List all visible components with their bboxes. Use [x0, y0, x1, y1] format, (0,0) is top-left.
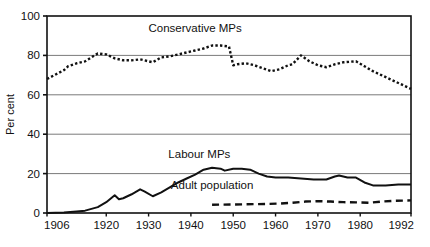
series-label-adult-population: Adult population — [171, 179, 253, 191]
series-annotations: Conservative MPsLabour MPsAdult populati… — [148, 22, 253, 192]
series-line-adult-population — [212, 200, 411, 204]
y-axis-title: Per cent — [4, 94, 16, 135]
chart-container: 190619201930194019501960197019801992 020… — [0, 0, 430, 247]
line-chart: 190619201930194019501960197019801992 020… — [0, 0, 430, 247]
x-tick-label-1940: 1940 — [178, 219, 204, 231]
x-tick-label-1950: 1950 — [220, 219, 246, 231]
y-tick-label-60: 60 — [27, 89, 40, 101]
x-tick-label-1920: 1920 — [93, 219, 119, 231]
x-tick-label-1980: 1980 — [347, 219, 373, 231]
series-line-conservative-mps — [47, 46, 411, 89]
y-axis-title-text: Per cent — [4, 94, 16, 135]
x-tick-label-1992: 1992 — [388, 219, 414, 231]
x-axis-tick-labels: 190619201930194019501960197019801992 — [44, 219, 414, 231]
y-tick-label-40: 40 — [27, 128, 40, 140]
x-tick-label-1960: 1960 — [263, 219, 289, 231]
y-tick-label-100: 100 — [21, 10, 40, 22]
series-label-conservative-mps: Conservative MPs — [148, 22, 242, 34]
x-tick-label-1906: 1906 — [44, 219, 70, 231]
y-tick-label-80: 80 — [27, 49, 40, 61]
y-tick-label-20: 20 — [27, 168, 40, 180]
x-tick-label-1970: 1970 — [305, 219, 331, 231]
y-tick-label-0: 0 — [34, 207, 40, 219]
x-tick-label-1930: 1930 — [136, 219, 162, 231]
y-axis-tick-labels: 020406080100 — [21, 10, 40, 219]
series-label-labour-mps: Labour MPs — [168, 148, 230, 160]
